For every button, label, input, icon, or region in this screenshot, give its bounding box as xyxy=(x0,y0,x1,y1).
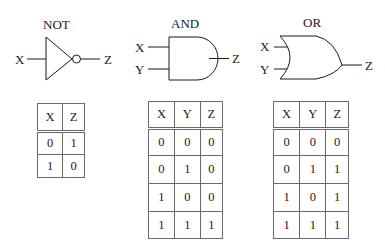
and-header-x: X xyxy=(149,102,175,129)
cell: 0 xyxy=(300,129,326,156)
and-input-y-label: Y xyxy=(135,63,144,76)
cell: 0 xyxy=(149,129,175,156)
or-output-z-label: Z xyxy=(365,59,373,72)
table-row: 0 1 1 xyxy=(274,156,349,184)
cell: 0 xyxy=(63,155,85,178)
and-header-y: Y xyxy=(174,102,200,129)
and-truth-table: X Y Z 0 0 0 0 1 0 1 0 0 1 1 1 xyxy=(148,101,223,239)
and-gate-title: AND xyxy=(171,17,199,30)
cell: 1 xyxy=(326,156,349,184)
cell: 0 xyxy=(174,184,200,212)
cell: 0 xyxy=(174,129,200,156)
and-input-x-label: X xyxy=(135,41,144,54)
and-output-z-label: Z xyxy=(232,52,240,65)
cell: 1 xyxy=(149,184,175,212)
cell: 1 xyxy=(174,212,200,239)
or-header-z: Z xyxy=(326,102,349,129)
and-gate-symbol xyxy=(148,37,229,80)
cell: 1 xyxy=(274,212,300,239)
or-input-x-label: X xyxy=(260,40,269,53)
or-gate-symbol xyxy=(274,36,362,79)
cell: 0 xyxy=(200,184,222,212)
not-output-z-label: Z xyxy=(104,53,112,66)
not-gate-symbol xyxy=(27,37,100,80)
table-row: 1 0 1 xyxy=(274,184,349,212)
cell: 1 xyxy=(300,156,326,184)
cell: 1 xyxy=(63,132,85,155)
table-row: 0 0 0 xyxy=(274,129,349,156)
gate-diagrams xyxy=(0,0,385,100)
or-header-y: Y xyxy=(300,102,326,129)
cell: 1 xyxy=(274,184,300,212)
cell: 1 xyxy=(326,184,349,212)
not-truth-table: X Z 0 1 1 0 xyxy=(37,103,85,178)
table-row: 1 1 1 xyxy=(149,212,223,239)
cell: 1 xyxy=(174,156,200,184)
cell: 0 xyxy=(200,129,222,156)
cell: 1 xyxy=(38,155,63,178)
or-header-x: X xyxy=(274,102,300,129)
or-input-y-label: Y xyxy=(260,63,269,76)
cell: 1 xyxy=(300,212,326,239)
not-gate-title: NOT xyxy=(43,18,70,31)
table-row: 1 0 xyxy=(38,155,85,178)
cell: 0 xyxy=(38,132,63,155)
table-row: 0 1 0 xyxy=(149,156,223,184)
cell: 1 xyxy=(326,212,349,239)
cell: 1 xyxy=(200,212,222,239)
cell: 0 xyxy=(326,129,349,156)
cell: 0 xyxy=(149,156,175,184)
cell: 1 xyxy=(149,212,175,239)
cell: 0 xyxy=(274,156,300,184)
cell: 0 xyxy=(300,184,326,212)
or-truth-table: X Y Z 0 0 0 0 1 1 1 0 1 1 1 1 xyxy=(273,101,349,239)
cell: 0 xyxy=(200,156,222,184)
not-header-z: Z xyxy=(63,104,85,132)
table-row: 1 0 0 xyxy=(149,184,223,212)
cell: 0 xyxy=(274,129,300,156)
table-row: 0 1 xyxy=(38,132,85,155)
table-row: 0 0 0 xyxy=(149,129,223,156)
and-header-z: Z xyxy=(200,102,222,129)
not-input-x-label: X xyxy=(15,53,24,66)
not-header-x: X xyxy=(38,104,63,132)
table-row: 1 1 1 xyxy=(274,212,349,239)
or-gate-title: OR xyxy=(303,16,321,29)
